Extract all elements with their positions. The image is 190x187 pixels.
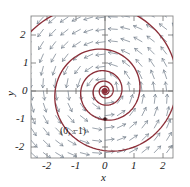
xtick-label-0: -2: [42, 160, 51, 171]
ytick-label-3: -1: [16, 113, 25, 124]
initial-condition-marker: [103, 117, 107, 121]
xtick-label-1: -1: [71, 160, 80, 171]
xtick-label-3: 1: [131, 160, 137, 171]
xtick-label-4: 2: [160, 160, 166, 171]
ytick-label-0: 2: [20, 29, 26, 40]
xtick-label-2: 0: [102, 160, 108, 171]
ytick-label-2: 0: [22, 85, 28, 96]
x-axis-label: x: [101, 172, 106, 183]
ytick-label-1: 1: [23, 57, 29, 68]
ytick-label-4: -2: [15, 141, 24, 152]
origin-equilibrium-marker: [102, 88, 107, 93]
initial-condition-annotation: (0, −1): [60, 127, 86, 137]
y-axis-label: y: [5, 91, 16, 96]
phase-portrait-figure: -2 -1 0 1 2 2 1 0 -1 -2 x y (0, −1): [0, 0, 190, 187]
